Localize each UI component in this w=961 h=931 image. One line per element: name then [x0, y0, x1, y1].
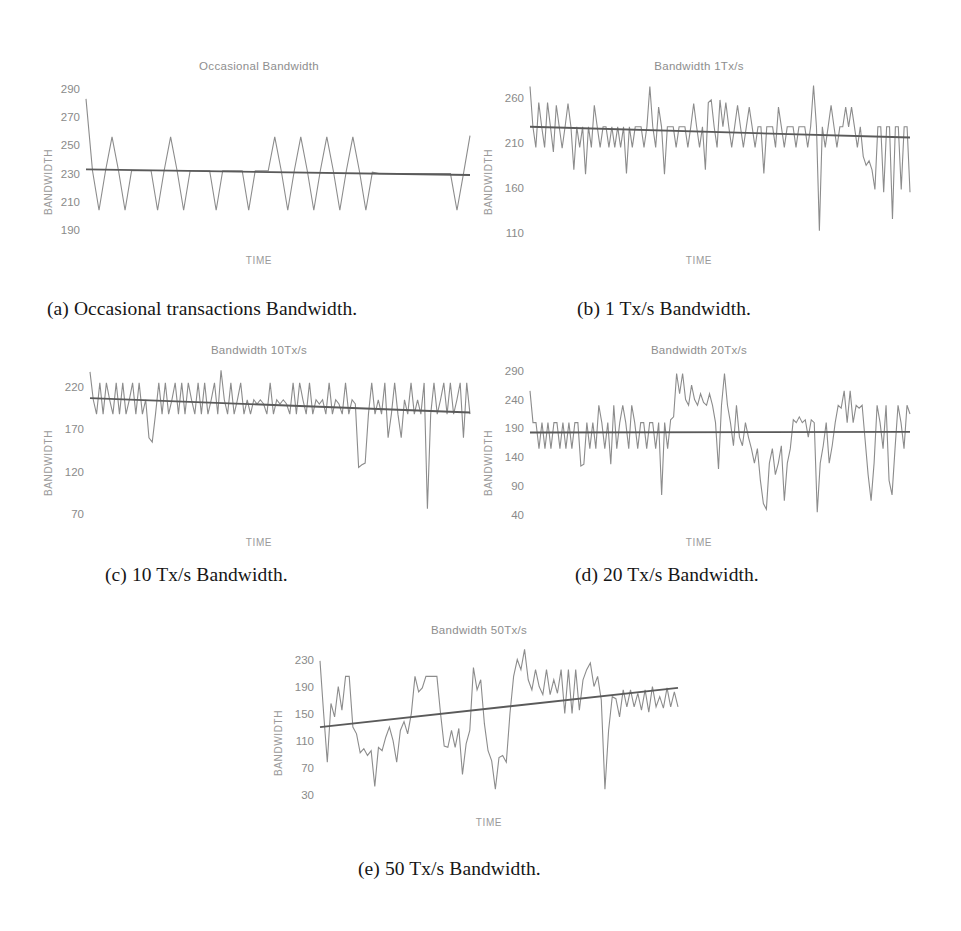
figure-grid: Occasional Bandwidth 190210230250270290 …	[0, 0, 961, 931]
chart-d-ytick-140: 140	[505, 451, 524, 463]
chart-d-ytick-labels: 4090140190240290	[505, 365, 524, 521]
chart-d-trend-line	[530, 432, 910, 433]
chart-panel-d: Bandwidth 20Tx/s 4090140190240290 BANDWI…	[478, 338, 920, 573]
chart-panel-e: Bandwidth 50Tx/s 3070110150190230 BANDWI…	[258, 618, 700, 853]
chart-a-ytick-210: 210	[61, 196, 80, 208]
chart-b-ytick-110: 110	[506, 227, 524, 239]
chart-e-data-line	[320, 649, 678, 789]
chart-panel-c: Bandwidth 10Tx/s 70120170220 BANDWIDTH T…	[38, 338, 480, 573]
chart-e-svg: Bandwidth 50Tx/s 3070110150190230 BANDWI…	[258, 618, 700, 853]
chart-d-svg: Bandwidth 20Tx/s 4090140190240290 BANDWI…	[478, 338, 920, 573]
chart-b-trend-line	[530, 127, 910, 138]
chart-a-title: Occasional Bandwidth	[199, 60, 319, 72]
chart-a-ytick-270: 270	[61, 111, 80, 123]
caption-a: (a) Occasional transactions Bandwidth.	[47, 298, 357, 320]
chart-panel-a: Occasional Bandwidth 190210230250270290 …	[38, 52, 480, 307]
chart-e-ytick-150: 150	[295, 708, 314, 720]
chart-c-data-line	[90, 370, 470, 508]
chart-b-ytick-210: 210	[505, 137, 524, 149]
chart-d-ytick-190: 190	[505, 422, 524, 434]
chart-e-trend-line	[320, 688, 678, 727]
chart-a-trend-line	[86, 169, 470, 175]
chart-c-svg: Bandwidth 10Tx/s 70120170220 BANDWIDTH T…	[38, 338, 480, 573]
chart-e-xlabel: TIME	[476, 817, 502, 828]
chart-panel-b: Bandwidth 1Tx/s 110160210260 BANDWIDTH T…	[478, 52, 920, 307]
caption-e: (e) 50 Tx/s Bandwidth.	[358, 858, 541, 880]
chart-d-ylabel: BANDWIDTH	[483, 430, 494, 496]
chart-a-data-line	[86, 99, 470, 210]
chart-e-ytick-labels: 3070110150190230	[295, 654, 314, 801]
chart-d-ytick-240: 240	[505, 394, 524, 406]
chart-b-svg: Bandwidth 1Tx/s 110160210260 BANDWIDTH T…	[478, 52, 920, 307]
chart-c-ytick-70: 70	[71, 508, 84, 520]
chart-e-ytick-70: 70	[301, 762, 314, 774]
chart-b-ylabel: BANDWIDTH	[483, 149, 494, 215]
chart-b-ytick-260: 260	[505, 92, 524, 104]
chart-d-ytick-90: 90	[511, 480, 524, 492]
caption-c: (c) 10 Tx/s Bandwidth.	[105, 564, 288, 586]
chart-b-xlabel: TIME	[686, 255, 712, 266]
chart-e-ytick-110: 110	[296, 735, 314, 747]
chart-a-ylabel: BANDWIDTH	[43, 149, 54, 215]
chart-d-xlabel: TIME	[686, 537, 712, 548]
chart-a-ytick-250: 250	[61, 139, 80, 151]
chart-a-ytick-230: 230	[61, 168, 80, 180]
chart-a-ytick-290: 290	[61, 83, 80, 95]
chart-e-ytick-30: 30	[301, 789, 314, 801]
chart-a-svg: Occasional Bandwidth 190210230250270290 …	[38, 52, 480, 307]
chart-a-ytick-labels: 190210230250270290	[61, 83, 80, 236]
chart-d-title: Bandwidth 20Tx/s	[651, 344, 747, 356]
chart-e-title: Bandwidth 50Tx/s	[431, 624, 527, 636]
chart-c-ylabel: BANDWIDTH	[43, 430, 54, 496]
chart-a-xlabel: TIME	[246, 255, 272, 266]
chart-c-ytick-120: 120	[65, 466, 84, 478]
chart-c-title: Bandwidth 10Tx/s	[211, 344, 307, 356]
chart-a-ytick-190: 190	[61, 224, 80, 236]
chart-d-data-line	[530, 374, 910, 513]
chart-b-ytick-160: 160	[505, 182, 524, 194]
chart-e-ytick-190: 190	[295, 681, 314, 693]
chart-b-title: Bandwidth 1Tx/s	[654, 60, 744, 72]
chart-e-ylabel: BANDWIDTH	[273, 710, 284, 776]
caption-d: (d) 20 Tx/s Bandwidth.	[575, 564, 759, 586]
chart-d-ytick-290: 290	[505, 365, 524, 377]
chart-c-ytick-labels: 70120170220	[65, 381, 84, 520]
chart-c-ytick-220: 220	[65, 381, 84, 393]
chart-d-ytick-40: 40	[511, 509, 524, 521]
chart-c-xlabel: TIME	[246, 537, 272, 548]
chart-b-data-line	[530, 86, 910, 231]
caption-b: (b) 1 Tx/s Bandwidth.	[577, 298, 751, 320]
chart-b-ytick-labels: 110160210260	[505, 92, 524, 238]
chart-e-ytick-230: 230	[295, 654, 314, 666]
chart-c-ytick-170: 170	[65, 423, 84, 435]
